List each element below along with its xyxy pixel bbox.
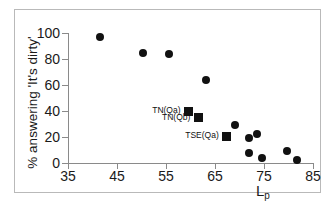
data-point-circle	[96, 33, 104, 41]
x-axis-title: Lp	[256, 182, 270, 199]
x-tick-label: 45	[100, 168, 134, 184]
x-tick-label: 55	[149, 168, 183, 184]
data-point-circle	[283, 147, 291, 155]
data-point-circle	[258, 154, 266, 162]
data-point-square	[194, 113, 203, 122]
y-tick-mark	[62, 33, 68, 34]
x-tick-label: 85	[296, 168, 330, 184]
data-point-circle	[202, 76, 210, 84]
data-point-square	[222, 132, 231, 141]
x-axis-line	[68, 163, 313, 164]
y-tick-mark	[62, 137, 68, 138]
point-label: TN(Qb)	[70, 113, 190, 122]
y-tick-mark	[62, 59, 68, 60]
data-point-circle	[245, 134, 253, 142]
data-point-circle	[231, 121, 239, 129]
scatter-plot-figure: 020406080100 354555657585 TN(Qa)TN(Qb)TS…	[0, 0, 335, 207]
point-label: TSE(Qa)	[99, 131, 219, 140]
data-point-circle	[253, 130, 261, 138]
x-tick-label: 35	[51, 168, 85, 184]
x-tick-label: 65	[198, 168, 232, 184]
plot-area: 020406080100 354555657585 TN(Qa)TN(Qb)TS…	[0, 0, 335, 207]
x-axis-title-sub: p	[264, 190, 270, 201]
y-axis-line	[68, 33, 69, 164]
data-point-circle	[139, 49, 147, 57]
data-point-circle	[165, 50, 173, 58]
data-point-circle	[245, 149, 253, 157]
y-tick-mark	[62, 85, 68, 86]
y-axis-title: % answering 'It's dirty'	[25, 19, 40, 187]
